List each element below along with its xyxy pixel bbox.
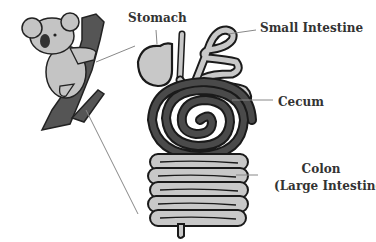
- koala-nose: [40, 34, 50, 48]
- koala-eye: [53, 33, 56, 36]
- label-stomach: Stomach: [128, 11, 187, 25]
- koala-ear-left: [22, 18, 42, 38]
- koala-illustration: [22, 13, 104, 130]
- label-colon-line1: Colon: [274, 161, 368, 178]
- colon-end: [178, 224, 184, 238]
- leader-line-koala-bottom: [86, 110, 138, 214]
- stomach-shape: [138, 43, 172, 86]
- label-colon-line2: (Large Intestine): [274, 178, 368, 195]
- diagram-canvas: [0, 0, 376, 242]
- colon: [148, 154, 248, 238]
- cecum-spiral: [152, 82, 252, 156]
- label-cecum: Cecum: [278, 95, 324, 109]
- label-colon: Colon (Large Intestine): [274, 161, 368, 195]
- koala-ear-right: [61, 13, 79, 31]
- leader-line-stomach: [156, 30, 157, 44]
- label-small-intestine: Small Intestine: [260, 21, 363, 35]
- leader-line-koala-top: [96, 46, 135, 62]
- esophagus-fill: [180, 34, 182, 78]
